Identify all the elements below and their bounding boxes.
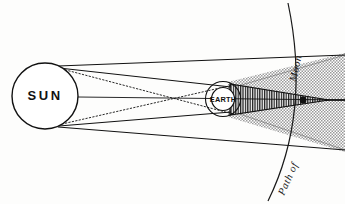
sun-body: SUN (12, 63, 78, 129)
eclipse-diagram-canvas: SUN EARTH Moon Path of (0, 0, 345, 204)
sun-label: SUN (27, 88, 62, 103)
earth-label: EARTH (210, 95, 236, 104)
eclipse-diagram: SUN EARTH Moon Path of (0, 0, 345, 204)
moon-body (300, 97, 307, 104)
